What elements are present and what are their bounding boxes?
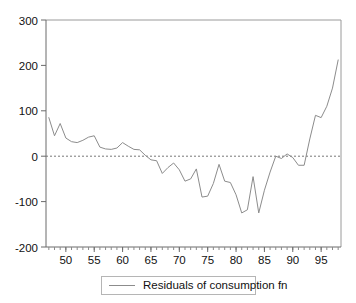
x-tick-label: 70	[173, 254, 186, 266]
x-tick-label: 80	[230, 254, 243, 266]
y-tick-label: 100	[19, 105, 38, 117]
plot-area-background	[46, 20, 341, 247]
x-tick-label: 50	[59, 254, 72, 266]
x-axis-major-ticks	[66, 247, 321, 252]
chart-legend: Residuals of consumption fn	[101, 276, 256, 295]
x-tick-label: 95	[315, 254, 328, 266]
x-tick-label: 55	[88, 254, 101, 266]
chart-figure: 300 200 100 0 -100 -200 5055606570758085…	[0, 0, 356, 303]
y-tick-label: -200	[15, 242, 38, 254]
x-tick-label: 60	[116, 254, 129, 266]
residuals-line-chart: 300 200 100 0 -100 -200 5055606570758085…	[0, 0, 356, 303]
y-tick-label: 300	[19, 15, 38, 27]
legend-entry-label: Residuals of consumption fn	[143, 280, 287, 292]
y-tick-label: 200	[19, 60, 38, 72]
x-tick-label: 75	[201, 254, 214, 266]
x-tick-label: 65	[145, 254, 158, 266]
legend-line-swatch	[109, 285, 135, 286]
x-tick-label: 85	[258, 254, 271, 266]
y-tick-label: 0	[32, 151, 38, 163]
y-axis-tick-labels: 300 200 100 0 -100 -200	[15, 15, 38, 254]
x-tick-label: 90	[286, 254, 299, 266]
y-axis-ticks	[41, 20, 46, 247]
y-tick-label: -100	[15, 196, 38, 208]
x-axis-tick-labels: 50556065707580859095	[59, 254, 327, 266]
